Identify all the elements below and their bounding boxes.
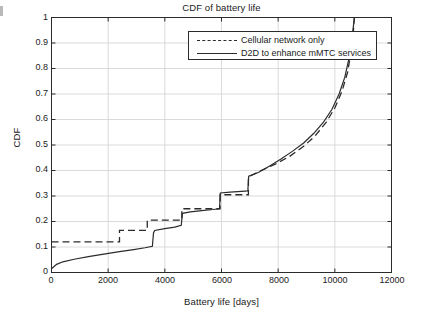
legend[interactable]: Cellular network only D2D to enhance mMT… bbox=[188, 31, 377, 60]
legend-item-cellular[interactable]: Cellular network only bbox=[189, 33, 376, 47]
figure-canvas: CDF of battery life CDF Battery life [da… bbox=[0, 0, 427, 322]
legend-label: D2D to enhance mMTC services bbox=[241, 47, 371, 59]
legend-label: Cellular network only bbox=[241, 34, 325, 46]
legend-line-sample-solid bbox=[197, 53, 237, 54]
legend-line-sample-dashed bbox=[197, 40, 237, 41]
legend-item-d2d[interactable]: D2D to enhance mMTC services bbox=[189, 46, 376, 60]
